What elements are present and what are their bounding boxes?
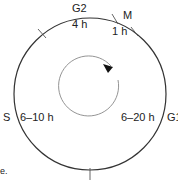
phase-label-g1: G1 [167,112,178,123]
phase-label-s: S [3,112,10,123]
phase-label-m: M [123,10,132,21]
outer-cycle-circle [14,18,166,170]
tick-m-g1 [131,27,138,36]
phase-duration-m: 1 h [112,26,127,37]
caption-fragment: e. [0,167,8,176]
arrowhead-icon [103,64,113,73]
phase-duration-s: 6–10 h [20,112,54,123]
phase-label-g2: G2 [72,3,87,14]
cell-cycle-diagram [0,0,178,180]
phase-duration-g1: 6–20 h [121,112,155,123]
phase-duration-g2: 4 h [72,19,87,30]
inner-cycle-arrow [59,56,119,116]
